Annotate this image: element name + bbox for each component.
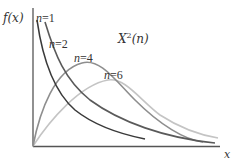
chi-square-chart: f(x) x n=1 n=2 n=4 n=6 X2(n) [0, 0, 242, 168]
chart-title: X2(n) [117, 31, 149, 46]
series-label-n2: n=2 [49, 37, 68, 51]
y-axis-label: f(x) [2, 11, 24, 25]
series-label-n6: n=6 [104, 68, 123, 82]
x-axis-label: x [224, 148, 231, 161]
curve-n2 [45, 22, 215, 143]
series-label-n4: n=4 [74, 51, 93, 65]
series-label-n1: n=1 [36, 11, 55, 25]
